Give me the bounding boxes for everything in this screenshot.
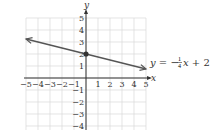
eq-denominator: 4	[178, 63, 181, 69]
eq-equals: = −	[156, 57, 179, 68]
x-tick-label: 4	[131, 80, 136, 89]
y-intercept-point	[83, 51, 88, 56]
eq-numerator: 1	[178, 56, 181, 62]
graph: −5−4−3−2−11234554321−1−2−3−4 y x y = − 1…	[0, 0, 214, 130]
y-tick-label: −1	[72, 86, 84, 95]
tick-labels: −5−4−3−2−11234554321−1−2−3−4	[20, 14, 148, 130]
y-tick-label: −3	[72, 110, 84, 119]
y-tick-label: 5	[79, 14, 84, 23]
y-tick-label: −2	[72, 98, 84, 107]
axes	[24, 9, 152, 130]
x-tick-label: −5	[20, 80, 32, 89]
x-tick-label: 3	[119, 80, 124, 89]
eq-tail: + 2	[189, 57, 210, 68]
x-tick-label: 2	[107, 80, 112, 89]
equation-label: y = − 1 4 x + 2	[149, 56, 210, 69]
y-tick-label: 4	[79, 26, 84, 35]
x-tick-label: −2	[56, 80, 68, 89]
svg-text:y = −: y = −	[149, 57, 179, 68]
y-tick-label: 1	[79, 62, 84, 71]
x-tick-label: 1	[95, 80, 100, 89]
x-tick-label: −4	[32, 80, 44, 89]
y-tick-label: 2	[79, 50, 84, 59]
x-axis-label: x	[151, 73, 156, 83]
x-tick-label: −3	[44, 80, 56, 89]
y-axis-label: y	[83, 0, 90, 10]
x-tick-label: 5	[143, 80, 148, 89]
y-tick-label: 3	[79, 38, 84, 47]
y-tick-label: −4	[72, 122, 84, 130]
svg-text:x + 2: x + 2	[183, 57, 210, 68]
